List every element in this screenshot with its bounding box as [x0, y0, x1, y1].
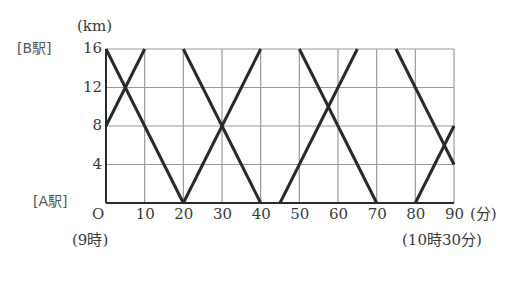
x-tick-label: 70	[368, 206, 387, 222]
y-tick-label: 4	[92, 156, 102, 172]
x-tick-label: 60	[329, 206, 348, 222]
a-station-label: [A駅]	[33, 193, 68, 209]
x-tick-label: 80	[406, 206, 425, 222]
start-time-label: (9時)	[72, 232, 108, 248]
train-line	[396, 49, 454, 165]
x-unit-label: (分)	[470, 206, 497, 222]
x-tick-label: 90	[445, 206, 464, 222]
x-tick-label: 20	[174, 206, 193, 222]
y-tick-label: 12	[83, 79, 102, 95]
x-tick-label: 10	[136, 206, 155, 222]
end-time-label: (10時30分)	[402, 232, 482, 248]
grid-lines	[106, 49, 454, 203]
x-tick-label: 40	[252, 206, 271, 222]
y-unit-label: (km)	[77, 18, 112, 34]
b-station-label: [B駅]	[17, 40, 52, 56]
y-tick-label: 16	[83, 40, 102, 56]
x-tick-label: 30	[213, 206, 232, 222]
x-tick-label: 50	[290, 206, 309, 222]
x-origin-label: O	[92, 206, 104, 222]
y-tick-label: 8	[92, 117, 102, 133]
